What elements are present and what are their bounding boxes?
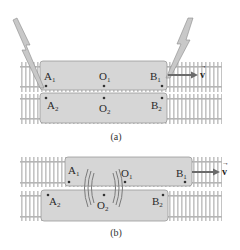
label-b-b1: B1 [176, 168, 187, 181]
label-b-o2: O2 [97, 200, 108, 213]
label-o1: O1 [99, 71, 110, 84]
label-b1: B1 [150, 71, 161, 84]
velocity-label-a: v [200, 69, 205, 80]
label-b2: B2 [151, 100, 162, 113]
caption-a: (a) [101, 131, 131, 142]
caption-b: (b) [101, 227, 131, 238]
velocity-label-b: v [222, 166, 227, 177]
label-a1: A1 [44, 71, 55, 84]
label-b-a1: A1 [68, 165, 79, 178]
label-b-o1: O1 [121, 168, 132, 181]
label-b-a2: A2 [49, 196, 60, 209]
relativity-diagram [0, 0, 240, 250]
label-b-b2: B2 [152, 196, 163, 209]
label-a2: A2 [47, 100, 58, 113]
label-o2: O2 [99, 103, 110, 116]
